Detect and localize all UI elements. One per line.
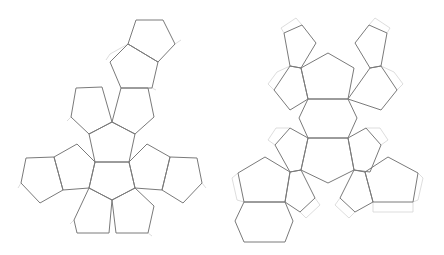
- pentagon-face: [89, 122, 135, 162]
- glue-tab: [202, 183, 206, 188]
- pentagon-face: [71, 87, 112, 134]
- glue-tab: [413, 173, 423, 202]
- pentagon-face: [128, 20, 175, 62]
- pentagon-face: [355, 25, 387, 68]
- glue-tab: [70, 220, 74, 224]
- glue-tab: [300, 198, 320, 218]
- glue-tab: [232, 173, 244, 202]
- pentagon-face: [340, 170, 373, 212]
- pentagon-face: [112, 188, 154, 233]
- pentagon-face: [301, 53, 354, 99]
- glue-tab: [148, 233, 152, 236]
- pentagon-face: [301, 138, 354, 183]
- pentagon-face: [348, 66, 397, 110]
- pentagon-face: [21, 157, 63, 203]
- glue-tab: [175, 40, 181, 44]
- glue-tab: [369, 18, 390, 33]
- diagram-canvas: [0, 0, 444, 255]
- glue-tab: [373, 202, 413, 212]
- pentagon-face: [110, 44, 158, 88]
- glue-tab: [67, 117, 71, 121]
- hexagon-face: [299, 99, 357, 138]
- pentagon-face: [112, 88, 154, 134]
- pentagon-face: [162, 157, 202, 203]
- pentagon-face: [285, 170, 315, 212]
- pentagon-face: [74, 188, 112, 233]
- pentagon-face: [54, 144, 95, 190]
- glue-tab: [335, 198, 355, 218]
- glue-tab: [106, 44, 128, 60]
- glue-tab: [268, 128, 290, 145]
- glue-tab: [281, 18, 302, 33]
- pentagon-face: [284, 25, 316, 68]
- glue-tab: [366, 128, 388, 145]
- glue-tab: [381, 66, 403, 90]
- pentagon-face: [238, 157, 290, 202]
- glue-tab: [152, 88, 156, 90]
- glue-tab: [268, 66, 290, 90]
- pentagon-face: [348, 128, 381, 172]
- pentagon-face: [274, 66, 308, 110]
- glue-tab: [18, 183, 21, 188]
- dodecahedron-net-left: [18, 20, 206, 236]
- dodecahedron-net-right: [232, 18, 423, 242]
- pentagon-face: [89, 162, 135, 200]
- hexagon-face: [235, 202, 293, 242]
